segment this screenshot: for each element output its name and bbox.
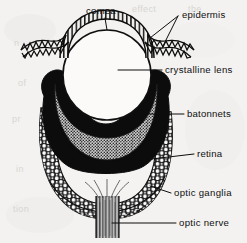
bleed-text: tion [13,204,29,214]
label-retina: retina [197,148,223,159]
label-epidermis: epidermis [182,9,225,20]
label-optic-nerve: optic nerve [179,217,229,228]
bleed-text: pr [12,114,21,124]
bleed-text: in [16,164,24,174]
label-crystalline-lens: crystalline lens [165,64,233,75]
label-optic-ganglia: optic ganglia [174,187,232,198]
label-cornea: comea [86,5,116,16]
bleed-text: of [18,78,26,88]
eye-anatomy-diagram: effect the n of pr in tion [0,0,247,243]
bleed-text: n [14,38,19,48]
figure-page: effect the n of pr in tion [0,0,247,243]
label-batonnets: batonnets [187,108,231,119]
crystalline-lens [63,30,151,120]
bleed-text: effect [132,4,156,14]
